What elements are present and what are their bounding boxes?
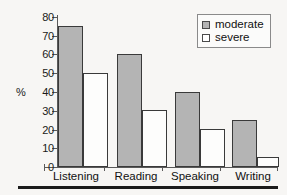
legend-swatch-moderate-icon: [202, 21, 210, 29]
x-axis-line: [44, 167, 278, 168]
legend-item-moderate: moderate: [202, 18, 264, 31]
y-tick-label-70: 70: [14, 31, 54, 42]
legend-label-moderate: moderate: [215, 18, 264, 31]
bar-reading-severe: [142, 110, 167, 167]
bar-reading-moderate: [117, 54, 142, 167]
bar-writing-moderate: [232, 120, 257, 167]
legend-label-severe: severe: [215, 31, 250, 44]
legend-swatch-severe-icon: [202, 34, 210, 42]
chart-legend: moderate severe: [197, 14, 271, 48]
bar-speaking-moderate: [175, 92, 200, 167]
bar-listening-moderate: [58, 26, 83, 167]
bar-listening-severe: [83, 73, 108, 167]
y-tick-label-60: 60: [14, 49, 54, 60]
y-tick-label-50: 50: [14, 68, 54, 79]
bottom-divider-rule: [18, 186, 278, 189]
y-tick-label-80: 80: [14, 12, 54, 23]
x-axis-category-label-writing: Writing: [224, 170, 282, 183]
x-axis-category-label-speaking: Speaking: [163, 170, 227, 183]
x-axis-category-label-listening: Listening: [42, 170, 110, 183]
y-tick-label-30: 30: [14, 106, 54, 117]
y-tick-label-20: 20: [14, 125, 54, 136]
y-tick-label-10: 10: [14, 143, 54, 154]
bar-writing-severe: [257, 157, 279, 167]
bar-chart-figure: 80 70 60 50 40 30 20 10 0 % Listening Re…: [0, 0, 287, 195]
legend-item-severe: severe: [202, 31, 264, 44]
bar-speaking-severe: [200, 129, 225, 167]
y-axis-label: %: [16, 87, 26, 98]
x-axis-category-label-reading: Reading: [105, 170, 167, 183]
